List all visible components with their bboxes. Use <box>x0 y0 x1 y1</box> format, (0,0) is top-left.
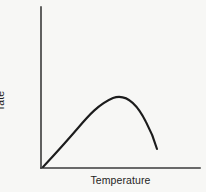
x-axis-label: Temperature <box>41 174 200 187</box>
reaction-rate-curve <box>43 97 157 167</box>
y-axis-label-line-2: rate <box>0 81 6 119</box>
reaction-rate-vs-temperature-chart: Reaction rate Temperature <box>0 0 206 192</box>
y-axis-label: Reaction rate <box>0 81 6 119</box>
chart-plot-area <box>0 0 206 192</box>
